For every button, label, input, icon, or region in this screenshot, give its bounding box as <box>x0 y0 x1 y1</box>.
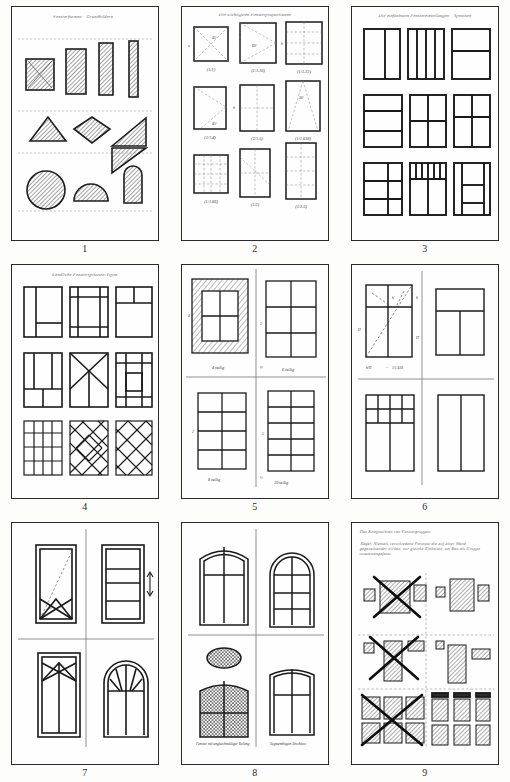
svg-text:(1/1.618): (1/1.618) <box>295 136 311 141</box>
plate-7-number: 7 <box>82 765 88 782</box>
svg-text:b: b <box>281 42 283 46</box>
svg-text:a: a <box>188 44 190 48</box>
scanned-sheet: Fensterformen – Grundbildern – <box>0 0 510 782</box>
svg-text:½: ½ <box>260 366 263 370</box>
svg-text:4 teilig: 4 teilig <box>212 365 225 370</box>
plate-5-drawing: 4 teilig 6 teilig 8 teilig 10 teilig 4 3… <box>182 265 329 491</box>
plate-8-caption-right: Segmentbogen Abschluss <box>270 742 307 746</box>
svg-text:(1/1.4): (1/1.4) <box>204 135 216 140</box>
svg-text:(1/2.5): (1/2.5) <box>295 204 307 209</box>
svg-text:4: 4 <box>188 314 190 318</box>
plate-8-drawing: Fenster mit ungleichmäßiger Teilung Segm… <box>182 523 329 753</box>
plate-1-number: 1 <box>82 241 88 258</box>
plate-4-heading: Ländliche Fenstersprossen-Typen <box>12 272 159 277</box>
svg-text:10 teilig: 10 teilig <box>274 480 289 485</box>
svg-text:(1/1.33): (1/1.33) <box>297 69 311 74</box>
plate-6-number: 6 <box>422 499 428 516</box>
svg-text:h': h' <box>392 296 395 300</box>
plate-2-number: 2 <box>252 241 258 258</box>
plate-grid: Fensterformen – Grundbildern – <box>0 0 510 782</box>
plate-8-frame: Fenster mit ungleichmäßiger Teilung Segm… <box>181 522 329 765</box>
plate-4: Ländliche Fenstersprossen-Typen <box>0 258 170 516</box>
plate-6-frame: H h H' h' h/H = 1/1.618 <box>351 264 499 499</box>
svg-text:(1/2): (1/2) <box>251 202 260 207</box>
svg-text:45°: 45° <box>48 606 54 610</box>
plate-9-frame: Das Komponieren von Fenstergruppen Regel… <box>351 522 499 765</box>
plate-5-frame: 4 teilig 6 teilig 8 teilig 10 teilig 4 3… <box>181 264 329 499</box>
plate-3-drawing <box>352 7 499 221</box>
svg-text:(1/1.5): (1/1.5) <box>251 136 263 141</box>
svg-text:45°: 45° <box>212 36 218 40</box>
plate-6: H h H' h' h/H = 1/1.618 6 <box>340 258 510 516</box>
plate-2-drawing: (1/1) (1/1.16) (1/1.33) (1/1.4) (1/1.5) … <box>182 7 329 221</box>
plate-1: Fensterformen – Grundbildern – <box>0 0 170 258</box>
svg-text:(1/1.16): (1/1.16) <box>251 68 265 73</box>
svg-text:45°: 45° <box>212 122 218 126</box>
svg-text:h: h <box>416 296 418 300</box>
svg-text:h/H: h/H <box>366 366 372 370</box>
svg-text:H: H <box>357 328 361 332</box>
svg-text:2: 2 <box>192 430 194 434</box>
plate-2-frame: Die wichtigsten Fensterproportionen <box>181 6 329 241</box>
plate-3-number: 3 <box>422 241 428 258</box>
wrong-marker <box>362 577 422 745</box>
plate-2-heading: Die wichtigsten Fensterproportionen <box>182 12 329 17</box>
plate-1-drawing <box>12 7 159 221</box>
svg-text:H': H' <box>415 336 420 340</box>
plate-6-drawing: H h H' h' h/H = 1/1.618 <box>352 265 499 491</box>
plate-8: Fenster mit ungleichmäßiger Teilung Segm… <box>170 516 340 782</box>
plate-9: Das Komponieren von Fenstergruppen Regel… <box>340 516 510 782</box>
plate-1-heading: Fensterformen – Grundbildern – <box>12 14 159 19</box>
plate-2: Die wichtigsten Fensterproportionen <box>170 0 340 258</box>
svg-text:(1/1): (1/1) <box>207 67 216 72</box>
plate-9-number: 9 <box>422 765 428 782</box>
plate-4-number: 4 <box>82 499 88 516</box>
plate-8-number: 8 <box>252 765 258 782</box>
svg-text:h: h <box>233 106 235 110</box>
svg-text:1/1.618: 1/1.618 <box>392 366 403 370</box>
svg-text:(1/1.66): (1/1.66) <box>204 199 218 204</box>
plate-5-number: 5 <box>252 499 258 516</box>
svg-text:=: = <box>386 366 389 370</box>
plate-4-drawing <box>12 265 159 485</box>
plate-7-frame: 45° <box>11 522 159 765</box>
plate-5: 4 teilig 6 teilig 8 teilig 10 teilig 4 3… <box>170 258 340 516</box>
plate-9-heading: Das Komponieren von Fenstergruppen <box>360 529 491 534</box>
svg-text:6 teilig: 6 teilig <box>282 367 295 372</box>
plate-4-frame: Ländliche Fenstersprossen-Typen <box>11 264 159 499</box>
plate-8-caption-left: Fenster mit ungleichmäßiger Teilung <box>195 742 249 746</box>
svg-text:5: 5 <box>262 432 264 436</box>
plate-3-frame: Die einfachsten Fenstereinteilungen – Sp… <box>351 6 499 241</box>
svg-text:60°: 60° <box>252 44 258 48</box>
plate-9-rule: Regel: Niemals verschiedene Formate die … <box>359 541 491 557</box>
svg-text:8 teilig: 8 teilig <box>208 477 221 482</box>
plate-3: Die einfachsten Fenstereinteilungen – Sp… <box>340 0 510 258</box>
plate-9-drawing <box>352 523 499 753</box>
svg-text:36°: 36° <box>299 96 305 100</box>
plate-1-frame: Fensterformen – Grundbildern – <box>11 6 159 241</box>
svg-text:3: 3 <box>260 322 262 326</box>
svg-text:¼: ¼ <box>260 476 263 480</box>
plate-7-drawing: 45° <box>12 523 159 753</box>
plate-7: 45° 7 <box>0 516 170 782</box>
plate-3-heading: Die einfachsten Fenstereinteilungen – Sp… <box>352 13 499 18</box>
